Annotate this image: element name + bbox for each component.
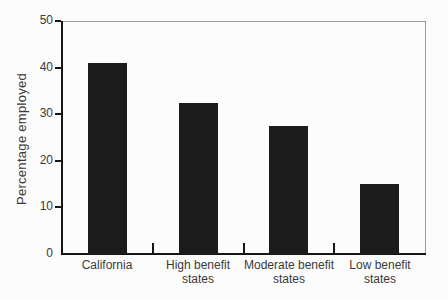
bar-chart-figure: Percentage employed 01020304050Californi… <box>0 0 448 300</box>
y-tick-label: 20 <box>25 152 53 168</box>
y-tick-mark <box>55 20 61 22</box>
y-tick-label: 30 <box>25 105 53 121</box>
bar-california <box>88 63 127 254</box>
plot-frame-right <box>425 21 426 255</box>
y-tick-mark <box>55 113 61 115</box>
y-tick-label: 0 <box>25 245 53 261</box>
x-axis-section-tick <box>243 243 245 254</box>
x-axis-section-tick <box>333 243 335 254</box>
x-axis-section-tick <box>152 243 154 254</box>
y-tick-label: 40 <box>25 59 53 75</box>
y-axis-title: Percentage employed <box>14 73 29 205</box>
bar-high-benefit <box>179 103 218 254</box>
bar-moderate-benefit <box>269 126 308 254</box>
y-tick-label: 50 <box>25 12 53 28</box>
y-tick-mark <box>55 160 61 162</box>
bar-low-benefit <box>360 184 399 254</box>
y-tick-label: 10 <box>25 198 53 214</box>
y-tick-mark <box>55 206 61 208</box>
plot-frame-top <box>62 21 426 22</box>
x-category-label: Low benefit states <box>325 258 435 286</box>
y-axis-line <box>61 21 63 255</box>
y-tick-mark <box>55 67 61 69</box>
